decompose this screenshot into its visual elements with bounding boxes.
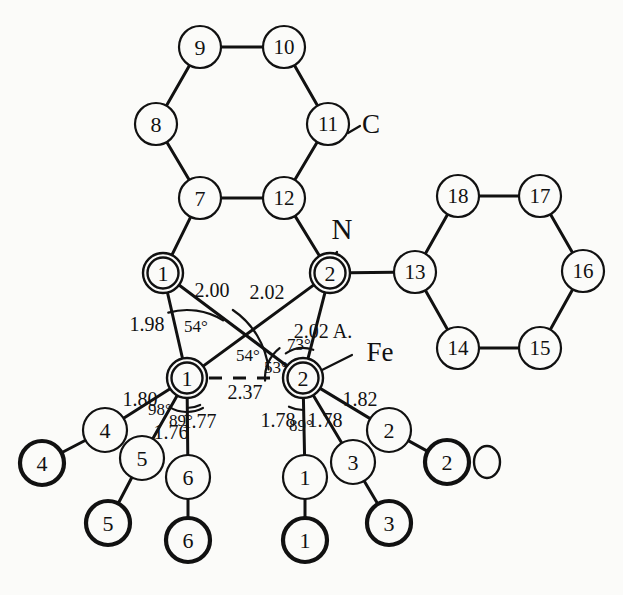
atom-ring1-10[interactable]: 10 (263, 26, 305, 68)
angle-label-a-54-upper: 54° (184, 317, 208, 336)
element-label-label-Fe: Fe (367, 337, 394, 367)
distance-label-d-n1-fe2: 2.00 (195, 279, 230, 301)
bond-c5-o5 (118, 477, 132, 503)
bond-ring1-12-n2 (295, 216, 320, 256)
atom-c4[interactable]: 4 (83, 408, 127, 452)
atom-o5[interactable]: 5 (86, 501, 130, 545)
bond-c4-o4 (61, 440, 85, 453)
figure-canvas: 7891011121314151617181212445566113322 CN… (0, 0, 623, 595)
bond-ring2-18-ring2-13 (425, 214, 447, 253)
bond-ring1-11-ring1-12 (295, 142, 318, 180)
leader-line-Fe (322, 355, 352, 370)
atom-label-c6: 6 (183, 465, 194, 490)
atom-fe1[interactable]: 1 (167, 358, 207, 398)
atom-label-o5: 5 (103, 511, 114, 536)
atom-ring2-14[interactable]: 14 (437, 327, 479, 369)
bond-ring2-16-ring2-17 (550, 214, 572, 253)
atom-n2[interactable]: 2 (310, 253, 350, 293)
atom-c3[interactable]: 3 (331, 440, 375, 484)
atom-label-ring2-16: 16 (573, 259, 594, 283)
atom-layer: 7891011121314151617181212445566113322 (20, 26, 604, 562)
distance-label-d-n1-fe1: 1.98 (130, 313, 165, 335)
distance-label-d-fe2-c2: 1.82 (343, 388, 378, 410)
atom-ring1-12[interactable]: 12 (263, 177, 305, 219)
atom-label-c4: 4 (100, 418, 111, 443)
bond-ring1-10-ring1-11 (294, 65, 317, 106)
bond-ring1-8-ring1-9 (166, 65, 189, 106)
atom-o4[interactable]: 4 (20, 441, 64, 485)
atom-label-o2: 2 (442, 450, 453, 475)
atom-ring1-8[interactable]: 8 (135, 103, 177, 145)
atom-label-c1: 1 (300, 465, 311, 490)
angle-arc-arc-89l (187, 405, 200, 408)
atom-label-c5: 5 (137, 446, 148, 471)
atom-label-ring2-13: 13 (405, 260, 426, 284)
atom-c2[interactable]: 2 (367, 408, 411, 452)
atom-label-ring2-15: 15 (530, 336, 551, 360)
element-label-label-C: C (362, 109, 380, 139)
atom-ring1-11[interactable]: 11 (307, 103, 349, 145)
bond-n1-fe1 (167, 292, 182, 358)
atom-ring2-15[interactable]: 15 (519, 327, 561, 369)
atom-ring1-7[interactable]: 7 (179, 177, 221, 219)
bond-ring2-15-ring2-16 (550, 289, 573, 329)
atom-label-ring1-9: 9 (195, 35, 206, 60)
atom-label-ring1-11: 11 (318, 112, 338, 136)
angle-label-a-89-right: 89° (289, 416, 313, 435)
atom-label-ring1-12: 12 (274, 186, 295, 210)
element-label-label-N: N (332, 213, 353, 245)
atom-o2[interactable]: 2 (425, 440, 469, 484)
bond-n2-ring2-13 (350, 272, 394, 273)
angle-label-a-89-left: 89° (169, 411, 193, 430)
atom-label-n2: 2 (325, 261, 336, 286)
bond-c3-o3 (364, 481, 378, 504)
bond-c2-o2 (408, 441, 427, 452)
atom-fe2[interactable]: 2 (283, 358, 323, 398)
atom-label-ring2-14: 14 (448, 336, 470, 360)
atom-label-o3: 3 (384, 511, 395, 536)
angle-label-a-53: 53° (264, 358, 288, 377)
atom-c6[interactable]: 6 (166, 455, 210, 499)
atom-label-c3: 3 (348, 450, 359, 475)
atom-label-c2: 2 (384, 418, 395, 443)
atom-o3[interactable]: 3 (367, 501, 411, 545)
bond-ring2-13-ring2-14 (425, 290, 447, 329)
angle-label-a-54-lower: 54° (236, 346, 260, 365)
atom-c1[interactable]: 1 (283, 455, 327, 499)
atom-ring2-13[interactable]: 13 (394, 251, 436, 293)
element-label-label-O (474, 446, 500, 478)
atom-label-fe1: 1 (182, 366, 193, 391)
atom-label-fe2: 2 (298, 366, 309, 391)
atom-o1[interactable]: 1 (283, 518, 327, 562)
atom-ring1-9[interactable]: 9 (179, 26, 221, 68)
atom-n1[interactable]: 1 (143, 253, 183, 293)
distance-label-d-fe1-fe2: 2.37 (228, 381, 263, 403)
atom-label-ring2-17: 17 (530, 184, 551, 208)
atom-label-ring1-8: 8 (151, 112, 162, 137)
bond-ring1-7-n1 (172, 217, 191, 255)
distance-label-d-n2-fe1: 2.02 (250, 281, 285, 303)
atom-label-ring1-7: 7 (195, 186, 206, 211)
atom-label-ring2-18: 18 (448, 184, 469, 208)
atom-label-o6: 6 (183, 528, 194, 553)
atom-ring2-18[interactable]: 18 (437, 175, 479, 217)
bond-ring1-7-ring1-8 (167, 142, 190, 180)
angle-label-a-73: 73° (287, 335, 311, 354)
molecular-structure-diagram: 7891011121314151617181212445566113322 CN… (0, 0, 623, 595)
atom-ring2-16[interactable]: 16 (562, 250, 604, 292)
atom-label-o1: 1 (300, 528, 311, 553)
atom-o6[interactable]: 6 (166, 518, 210, 562)
atom-label-n1: 1 (158, 261, 169, 286)
atom-label-ring1-10: 10 (274, 35, 295, 59)
atom-label-o4: 4 (37, 451, 48, 476)
atom-ring2-17[interactable]: 17 (519, 175, 561, 217)
